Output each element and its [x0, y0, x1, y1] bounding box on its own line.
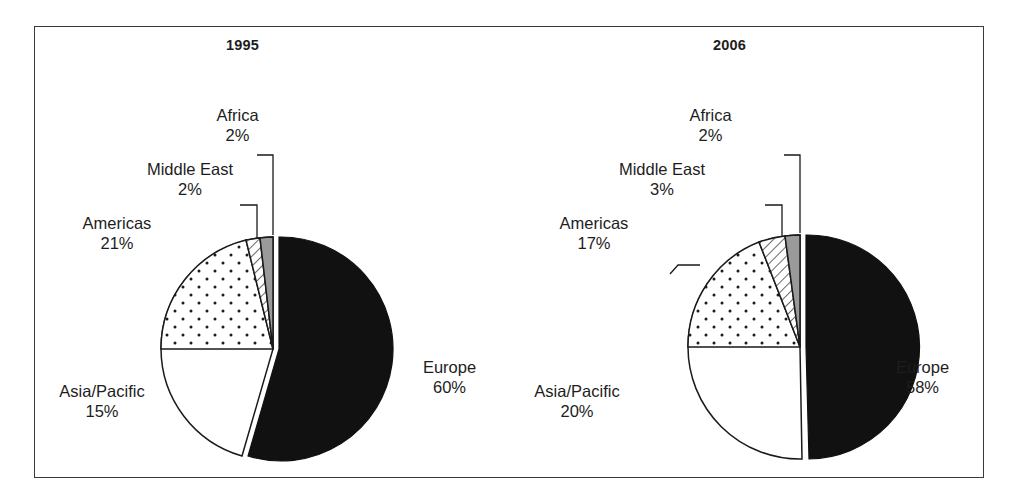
label-africa-value: 2%: [658, 125, 763, 145]
label-americas-value: 17%: [524, 233, 664, 253]
label-africa-name: Africa: [658, 105, 763, 125]
pie-label-middle-east-1995: Middle East 2%: [110, 159, 270, 199]
label-middle-east-value: 3%: [582, 179, 742, 199]
label-middle-east-value: 2%: [110, 179, 270, 199]
label-americas-value: 21%: [47, 233, 187, 253]
pie-label-middle-east-2006: Middle East 3%: [582, 159, 742, 199]
label-europe-name: Europe: [397, 357, 502, 377]
label-europe-value: 58%: [870, 377, 975, 397]
pie-label-africa-1995: Africa 2%: [185, 105, 290, 145]
label-africa-name: Africa: [185, 105, 290, 125]
pie-panel-2006: 2006: [510, 27, 985, 479]
pie-slice-europe: [806, 235, 920, 459]
pie-label-americas-2006: Americas 17%: [524, 213, 664, 253]
pie-chart-1995: Africa 2% Middle East 2% Americas 21% As…: [35, 27, 510, 479]
pie-label-europe-1995: Europe 60%: [397, 357, 502, 397]
label-europe-name: Europe: [870, 357, 975, 377]
figure-canvas: 1995: [0, 0, 1016, 499]
leader-line-middle-east: [240, 205, 257, 239]
label-asia-name: Asia/Pacific: [27, 381, 177, 401]
pie-label-americas-1995: Americas 21%: [47, 213, 187, 253]
pie-label-africa-2006: Africa 2%: [658, 105, 763, 145]
label-asia-value: 15%: [27, 401, 177, 421]
label-americas-name: Americas: [524, 213, 664, 233]
figure-frame: 1995: [34, 26, 984, 478]
label-africa-value: 2%: [185, 125, 290, 145]
pie-label-asia-pacific-1995: Asia/Pacific 15%: [27, 381, 177, 421]
label-middle-east-name: Middle East: [582, 159, 742, 179]
pie-label-asia-pacific-2006: Asia/Pacific 20%: [502, 381, 652, 421]
leader-line-americas: [670, 265, 700, 274]
leader-line-africa: [784, 155, 800, 233]
label-asia-value: 20%: [502, 401, 652, 421]
label-europe-value: 60%: [397, 377, 502, 397]
pie-panel-1995: 1995: [35, 27, 510, 479]
label-americas-name: Americas: [47, 213, 187, 233]
pie-chart-2006: Africa 2% Middle East 3% Americas 17% As…: [510, 27, 985, 479]
label-middle-east-name: Middle East: [110, 159, 270, 179]
label-asia-name: Asia/Pacific: [502, 381, 652, 401]
pie-label-europe-2006: Europe 58%: [870, 357, 975, 397]
leader-line-middle-east: [765, 205, 782, 237]
